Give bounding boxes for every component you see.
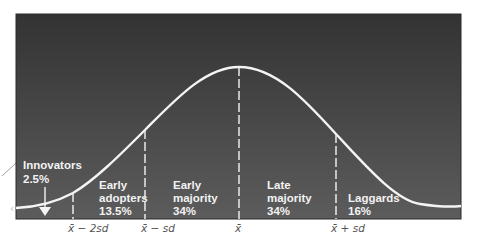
svg-text:majority: majority bbox=[267, 192, 312, 204]
tick-minus-sd: x̄ − sd bbox=[140, 222, 175, 234]
svg-text:adopters: adopters bbox=[99, 192, 148, 204]
svg-text:Early: Early bbox=[99, 179, 128, 191]
svg-text:2.5%: 2.5% bbox=[23, 173, 49, 185]
tick-mean: x̄ bbox=[234, 222, 242, 234]
svg-text:majority: majority bbox=[173, 192, 218, 204]
x-tick-labels: x̄ − 2sd x̄ − sd x̄ x̄ + sd bbox=[67, 222, 365, 234]
svg-text:16%: 16% bbox=[348, 205, 371, 217]
svg-text:Laggards: Laggards bbox=[348, 192, 400, 204]
svg-text:Late: Late bbox=[267, 179, 291, 191]
stray-line bbox=[2, 163, 16, 176]
svg-text:34%: 34% bbox=[173, 205, 196, 217]
tick-plus-sd: x̄ + sd bbox=[330, 222, 365, 234]
svg-text:Early: Early bbox=[173, 179, 202, 191]
svg-text:Innovators: Innovators bbox=[23, 159, 82, 171]
diffusion-chart: ‹ Innovators 2.5% Early adopters 13.5% E… bbox=[0, 0, 477, 244]
svg-text:13.5%: 13.5% bbox=[99, 205, 132, 217]
stray-mark: ‹ bbox=[10, 203, 14, 214]
svg-text:34%: 34% bbox=[267, 205, 290, 217]
tick-minus-2sd: x̄ − 2sd bbox=[67, 222, 109, 234]
